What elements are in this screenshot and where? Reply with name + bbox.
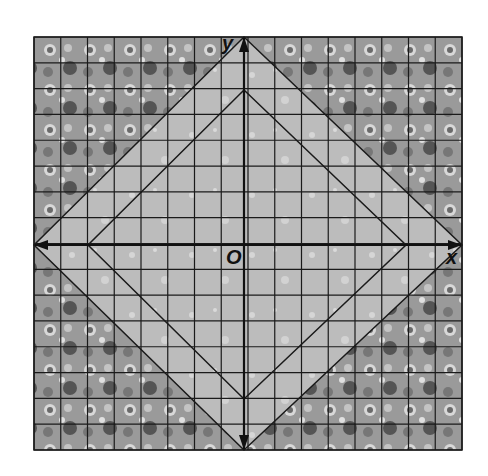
origin-label: O	[226, 246, 242, 269]
coordinate-figure	[0, 0, 488, 476]
y-axis-label: y	[222, 32, 233, 55]
x-axis-label: x	[446, 246, 457, 269]
